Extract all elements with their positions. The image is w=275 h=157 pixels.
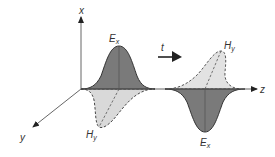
e-field-label-2: Ex: [200, 137, 211, 149]
e-field-pulse-1: [81, 46, 155, 89]
h-field-pulse-1: [81, 89, 155, 128]
time-label: t: [161, 42, 165, 53]
e-field-label-1: Ex: [109, 33, 120, 45]
time-arrowhead-icon: [172, 51, 182, 62]
em-wave-diagram: x y z t Ex Hy Hy Ex: [0, 0, 275, 157]
h-field-label-2: Hy: [224, 40, 235, 53]
z-axis-label: z: [259, 84, 265, 95]
x-axis-label: x: [78, 5, 85, 16]
h-field-label-1: Hy: [86, 129, 97, 142]
y-axis-label: y: [19, 132, 26, 143]
y-axis: [33, 89, 81, 127]
